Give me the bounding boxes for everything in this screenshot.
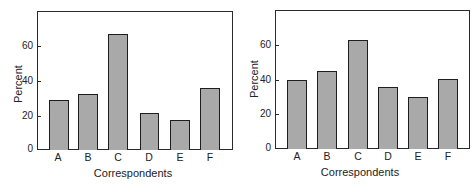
bar-B — [317, 71, 337, 149]
y-tick — [275, 114, 279, 115]
y-tick-label: 60 — [251, 40, 271, 50]
bar-A — [287, 80, 307, 149]
bar-D — [378, 87, 398, 149]
y-tick — [275, 80, 279, 81]
x-tick-label: B — [317, 151, 337, 162]
bar-C — [348, 40, 368, 149]
y-tick-label: 0 — [251, 143, 271, 153]
y-axis-label: Percent — [248, 60, 260, 98]
x-axis-label: Correspondents — [290, 166, 430, 178]
y-tick — [275, 45, 279, 46]
x-tick-label: F — [438, 151, 458, 162]
x-tick-label: D — [378, 151, 398, 162]
y-tick-label: 20 — [251, 109, 271, 119]
x-tick-label: C — [348, 151, 368, 162]
right-bar-chart: 0 20 40 60 Percent A B C D E F Correspon… — [0, 0, 475, 185]
x-tick-label: E — [408, 151, 428, 162]
x-tick-label: A — [287, 151, 307, 162]
bar-E — [408, 97, 428, 149]
bar-F — [438, 79, 458, 149]
